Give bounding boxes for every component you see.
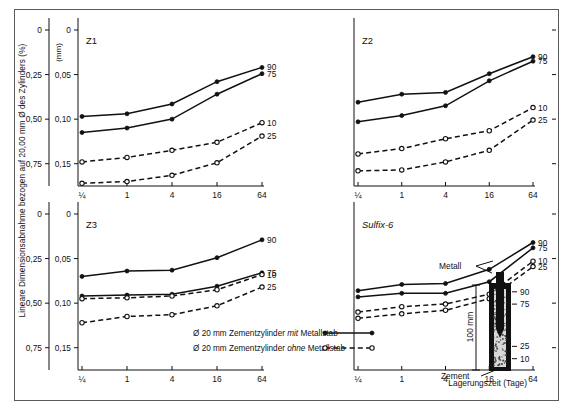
inset-speckle: [505, 338, 507, 340]
data-point: [444, 291, 448, 295]
inset-speckle: [501, 363, 503, 365]
inset-level-label-10: 10: [520, 354, 530, 364]
data-point: [170, 294, 174, 298]
data-point: [356, 152, 360, 156]
data-point: [260, 285, 264, 289]
inset-level-label-75: 75: [520, 299, 530, 309]
data-point: [125, 269, 129, 273]
inset-speckle: [502, 338, 503, 339]
inset-speckle: [493, 337, 494, 338]
x-tick-label: 64: [257, 190, 267, 200]
data-point: [443, 137, 447, 141]
data-point: [125, 126, 129, 130]
inset-metal-rod: [496, 272, 504, 338]
x-tick-label: ¼: [79, 190, 87, 200]
y-tick-label-percent: 0,75: [26, 343, 43, 353]
y-tick-label-mm: 0,05: [55, 254, 72, 264]
data-point: [356, 289, 360, 293]
data-point: [400, 146, 404, 150]
series-label-75: 75: [538, 243, 548, 253]
data-point: [531, 241, 535, 245]
inset-speckle: [494, 329, 495, 330]
series-line-90: [82, 67, 262, 116]
legend-marker-open: [370, 346, 374, 350]
inset-speckle: [495, 314, 496, 315]
inset-speckle: [500, 360, 501, 361]
inset-level-label-90: 90: [520, 287, 530, 297]
x-tick-label: 1: [399, 374, 404, 384]
legend-label-1: Ø 20 mm Zementzylinder mit Metallstab: [193, 329, 338, 338]
data-point: [80, 321, 84, 325]
data-point: [443, 160, 447, 164]
inset-speckle: [505, 350, 507, 352]
inset-speckle: [503, 354, 504, 355]
data-point: [215, 161, 219, 165]
inset-speckle: [493, 350, 495, 352]
data-point: [125, 112, 129, 116]
data-point: [531, 105, 535, 109]
inset-speckle: [504, 325, 505, 326]
inset-speckle: [504, 296, 505, 297]
inset-speckle: [505, 323, 506, 324]
inset-speckle: [504, 342, 506, 344]
inset-speckle: [502, 360, 504, 362]
series-label-90: 90: [267, 235, 277, 245]
data-point: [170, 102, 174, 106]
data-point: [444, 90, 448, 94]
y-tick-label-mm: 0,15: [55, 343, 72, 353]
inset-speckle: [495, 360, 497, 362]
data-point: [531, 59, 535, 63]
data-point: [80, 181, 84, 185]
data-point: [444, 282, 448, 286]
inset-speckle: [493, 347, 495, 349]
inset-speckle: [503, 344, 504, 345]
x-tick-label: ¼: [355, 374, 363, 384]
inset-speckle: [505, 360, 507, 362]
inset-speckle: [494, 313, 495, 314]
x-tick-label: 64: [528, 190, 538, 200]
inset-speckle: [504, 329, 506, 331]
data-point: [215, 140, 219, 144]
y-tick-label-percent: 0,25: [26, 254, 43, 264]
series-label-25: 25: [538, 115, 548, 125]
data-point: [400, 305, 404, 309]
inset-speckle: [494, 345, 496, 347]
y-tick-label-percent: 0,50: [26, 114, 43, 124]
x-tick-label: 1: [125, 190, 130, 200]
inset-speckle: [496, 336, 498, 338]
x-tick-label: 1: [399, 190, 404, 200]
inset-speckle: [503, 342, 504, 343]
y-tick-label-percent: 0,25: [26, 70, 43, 80]
inset-speckle: [505, 314, 507, 316]
inset-speckle: [494, 308, 496, 310]
series-label-25: 25: [267, 282, 277, 292]
data-point: [170, 148, 174, 152]
inset-speckle: [499, 356, 500, 357]
series-label-25: 25: [538, 262, 548, 272]
series-label-75: 75: [538, 56, 548, 66]
data-point: [356, 295, 360, 299]
inset-level-label-25: 25: [520, 341, 530, 351]
data-point: [260, 272, 264, 276]
series-line-10: [358, 108, 533, 154]
data-point: [80, 296, 84, 300]
inset-speckle: [502, 349, 504, 351]
data-point: [531, 55, 535, 59]
chart-canvas: ¼14166400,050,100,1500,250,500,75Z190751…: [0, 0, 571, 411]
panel-title-Z1: Z1: [86, 35, 97, 46]
data-point: [400, 168, 404, 172]
figure-root: Lineare Dimensionsabnahme bezogen auf 20…: [0, 0, 571, 411]
x-tick-label: 1: [125, 374, 130, 384]
inset-speckle: [493, 364, 495, 366]
data-point: [80, 131, 84, 135]
data-point: [125, 314, 129, 318]
inset-speckle: [504, 315, 505, 316]
x-tick-label: 16: [212, 190, 222, 200]
y-tick-label-mm: 0: [66, 209, 71, 219]
panel-title-Z3: Z3: [86, 219, 97, 230]
x-tick-label: 64: [257, 374, 267, 384]
inset-speckle: [498, 341, 500, 343]
data-point: [170, 173, 174, 177]
x-tick-label: ¼: [79, 374, 87, 384]
inset-metal-label: Metall: [439, 261, 461, 271]
